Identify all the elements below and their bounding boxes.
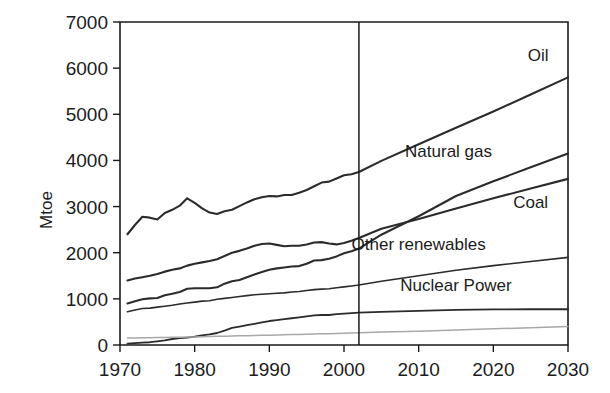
x-tick-label: 2030	[547, 359, 589, 380]
series-line-nuclear-power	[127, 309, 568, 343]
x-tick-label: 2010	[398, 359, 440, 380]
plot-border	[120, 22, 568, 345]
x-axis-tick-labels: 1970198019902000201020202030	[99, 359, 589, 380]
y-axis-title: Mtoe	[37, 191, 56, 229]
x-tick-label: 1970	[99, 359, 141, 380]
series-line-biomass-and-waste	[127, 327, 568, 339]
x-axis-ticks	[120, 345, 568, 352]
x-tick-label: 2000	[323, 359, 365, 380]
y-tick-label: 3000	[66, 197, 108, 218]
y-tick-label: 6000	[66, 58, 108, 79]
series-label-natural-gas: Natural gas	[405, 142, 492, 161]
series-label-coal: Coal	[513, 193, 548, 212]
y-tick-label: 4000	[66, 150, 108, 171]
series-label-other-renewables: Other renewables	[352, 235, 486, 254]
y-axis-ticks	[113, 22, 120, 345]
y-axis-tick-labels: 01000200030004000500060007000	[66, 12, 108, 356]
chart-canvas: 01000200030004000500060007000 1970198019…	[0, 0, 610, 393]
x-tick-label: 1990	[248, 359, 290, 380]
series-line-oil	[127, 77, 568, 234]
x-tick-label: 2020	[472, 359, 514, 380]
y-tick-label: 5000	[66, 104, 108, 125]
y-tick-label: 1000	[66, 289, 108, 310]
series-label-oil: Oil	[528, 46, 549, 65]
y-tick-label: 7000	[66, 12, 108, 33]
y-tick-label: 0	[97, 335, 108, 356]
series-label-nuclear-power: Nuclear Power	[400, 276, 512, 295]
series-paths	[127, 77, 568, 343]
energy-demand-line-chart: 01000200030004000500060007000 1970198019…	[0, 0, 610, 393]
x-tick-label: 1980	[174, 359, 216, 380]
y-tick-label: 2000	[66, 243, 108, 264]
plot-frame	[120, 22, 568, 345]
